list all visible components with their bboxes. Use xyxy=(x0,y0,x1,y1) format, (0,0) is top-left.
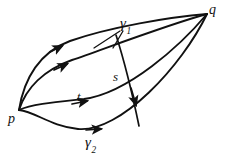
path-gamma2-arrowhead xyxy=(86,129,101,130)
label-param-t: t xyxy=(77,90,81,103)
label-path-gamma1: γ1 xyxy=(120,16,131,34)
label-gamma2-subscript: 2 xyxy=(91,145,96,155)
label-point-q: q xyxy=(209,3,216,17)
label-point-p: p xyxy=(8,112,15,126)
path-gamma1 xyxy=(19,14,207,110)
label-path-gamma2: γ2 xyxy=(85,135,96,153)
label-gamma1-subscript: 1 xyxy=(126,26,131,36)
homotopy-diagram: p q s t γ1 γ2 xyxy=(0,0,235,161)
label-param-s: s xyxy=(113,70,118,83)
s-transversal xyxy=(116,35,139,126)
